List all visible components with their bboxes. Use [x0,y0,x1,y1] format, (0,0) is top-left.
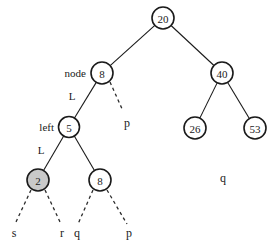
node-label-node53: 53 [250,123,262,135]
node-label-root: 20 [158,13,170,25]
node-label-node8: 8 [99,68,105,80]
tree-node-node5: 5 [59,117,80,138]
dashed-edge-node8lower-to-q [78,190,93,224]
tree-edge-node40-to-node53 [228,82,250,118]
tree-edge-root-to-node40 [171,26,214,66]
annotation-label-L-top: L [69,90,76,102]
tree-edge-root-to-node8 [110,25,155,65]
tree-edge-node40-to-node26 [200,83,217,118]
dashed-edge-node2-to-s [15,190,31,224]
node-label-node8lower: 8 [97,175,103,187]
tree-node-node53: 53 [244,117,266,139]
leaf-label-leaf-p-lower: p [126,226,132,240]
leaf-label-leaf-s: s [12,226,17,240]
tree-nodes-group: 208405265328 [27,7,266,191]
tree-edge-node5-to-node2 [44,136,64,170]
annotation-label-left: left [39,121,54,133]
tree-svg-canvas: 208405265328 nodeleftLL psrqpq [0,0,276,250]
leaf-label-leaf-p-upper: p [124,116,130,130]
tree-node-node26: 26 [184,117,206,139]
tree-node-node2: 2 [27,169,49,191]
tree-node-node8lower: 8 [89,169,111,191]
node-label-node5: 5 [66,122,72,134]
leaf-label-leaf-q: q [74,226,80,240]
leaf-label-leaf-q-free: q [220,171,226,185]
leaf-label-leaf-r: r [60,226,64,240]
tree-edge-node5-to-node8lower [74,136,94,170]
dashed-edge-node8-to-p [110,82,123,111]
node-label-node26: 26 [190,123,202,135]
annotation-label-node: node [65,67,87,79]
tree-edge-node8-to-node5 [74,82,96,118]
node-label-node40: 40 [217,68,229,80]
node-label-node2: 2 [35,175,41,187]
binary-tree-diagram: 208405265328 nodeleftLL psrqpq [0,0,276,250]
annotation-label-L-low: L [38,144,45,156]
tree-node-node8: 8 [91,62,113,84]
dashed-edge-node8lower-to-p [107,190,127,224]
tree-node-root: 20 [152,7,174,29]
tree-node-node40: 40 [211,62,233,84]
dashed-edges-group [15,82,127,224]
dashed-edge-node2-to-r [45,190,61,224]
